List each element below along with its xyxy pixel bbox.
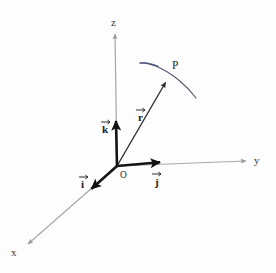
- unit-vector-label-j-group: j: [152, 172, 161, 188]
- vector-diagram-figure: z y x O k: [0, 0, 276, 273]
- unit-vector-j: [117, 162, 160, 166]
- unit-vector-k: [116, 121, 117, 166]
- vector-diagram-canvas: z y x O k: [0, 0, 276, 273]
- unit-vector-i: [92, 166, 118, 189]
- position-vector-label-r: r: [138, 111, 143, 123]
- axis-label-z: z: [111, 16, 116, 28]
- position-vector-r: [117, 83, 166, 167]
- unit-vector-label-k-group: k: [101, 120, 110, 135]
- position-vector-group: [117, 83, 166, 167]
- unit-vector-label-i-group: i: [79, 175, 88, 190]
- surface-curve-group: [140, 63, 196, 98]
- surface-curve-tint: [140, 63, 158, 67]
- unit-vector-label-i: i: [81, 178, 84, 190]
- unit-vector-label-k: k: [102, 123, 109, 135]
- axes-group: [28, 34, 246, 244]
- surface-curve: [140, 63, 196, 98]
- axis-label-y: y: [254, 154, 260, 166]
- point-label-p: P: [172, 59, 178, 71]
- axis-label-x: x: [11, 246, 17, 258]
- origin-label: O: [120, 170, 127, 180]
- unit-vector-label-j: j: [154, 176, 159, 188]
- axis-labels-group: z y x: [11, 16, 260, 258]
